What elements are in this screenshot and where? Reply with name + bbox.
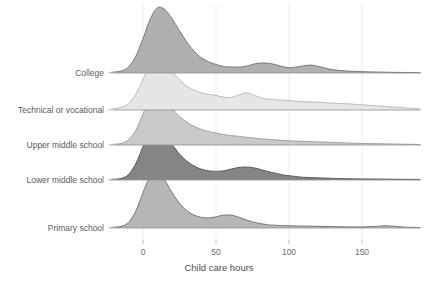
category-label-college: College: [75, 68, 104, 78]
x-tick-label-100: 100: [282, 247, 296, 257]
x-axis-ticks: 050100150: [141, 240, 370, 257]
category-axis-labels: CollegeTechnical or vocationalUpper midd…: [18, 68, 118, 233]
ridge-college: [111, 7, 421, 73]
category-label-primary-school: Primary school: [48, 223, 104, 233]
x-tick-label-150: 150: [355, 247, 369, 257]
category-label-upper-middle-school: Upper middle school: [27, 140, 105, 150]
ridgeline-chart: CollegeTechnical or vocationalUpper midd…: [0, 0, 438, 285]
ridge-series-group: [111, 7, 421, 228]
category-label-lower-middle-school: Lower middle school: [27, 175, 105, 185]
chart-canvas: CollegeTechnical or vocationalUpper midd…: [0, 0, 438, 285]
x-tick-label-0: 0: [141, 247, 146, 257]
x-tick-label-50: 50: [211, 247, 221, 257]
x-axis-title: Child care hours: [184, 262, 253, 273]
category-label-technical-or-vocational: Technical or vocational: [18, 105, 104, 115]
